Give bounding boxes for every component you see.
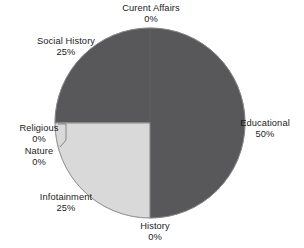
slice-label-social-history: Social History 25% xyxy=(37,36,95,59)
slice-label-history: History 0% xyxy=(140,221,170,244)
slice-label-percent: 50% xyxy=(240,129,290,140)
pie-slice-educational xyxy=(150,28,245,218)
slice-label-name: History xyxy=(140,221,170,232)
slice-label-nature: Nature 0% xyxy=(25,146,53,169)
slice-label-percent: 0% xyxy=(19,134,58,145)
slice-label-percent: 0% xyxy=(122,14,179,25)
slice-label-name: Infotainment xyxy=(40,192,92,203)
slice-label-percent: 25% xyxy=(37,47,95,58)
slice-label-educational: Educational 50% xyxy=(240,118,290,141)
pie-chart: Curent Affairs 0% Social History 25% Rel… xyxy=(0,0,304,248)
slice-label-name: Curent Affairs xyxy=(122,3,179,14)
slice-label-name: Social History xyxy=(37,36,95,47)
slice-label-name: Educational xyxy=(240,118,290,129)
slice-label-percent: 0% xyxy=(25,157,53,168)
slice-label-infotainment: Infotainment 25% xyxy=(40,192,92,215)
slice-label-percent: 0% xyxy=(140,232,170,243)
slice-label-percent: 25% xyxy=(40,203,92,214)
slice-label-religious: Religious 0% xyxy=(19,123,58,146)
slice-label-name: Nature xyxy=(25,146,53,157)
slice-label-curent-affairs: Curent Affairs 0% xyxy=(122,3,179,26)
slice-label-name: Religious xyxy=(19,123,58,134)
